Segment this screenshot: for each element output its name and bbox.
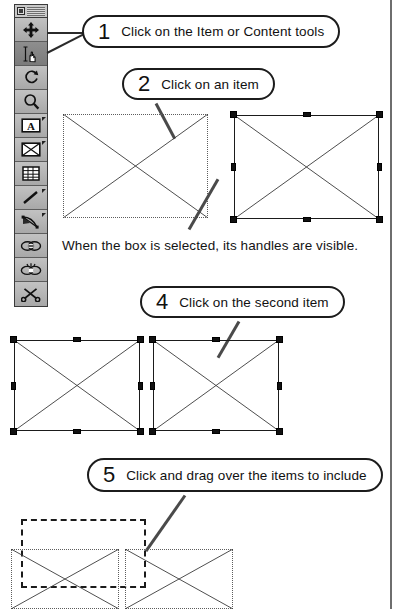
titlebar-stripes xyxy=(27,7,45,16)
picture-box-marquee-right[interactable] xyxy=(125,549,233,609)
tool-zoom-tool[interactable] xyxy=(15,90,47,114)
resize-handle-top-left[interactable] xyxy=(230,111,237,118)
tool-text-path-tool[interactable] xyxy=(15,210,47,234)
tool-rotation-tool[interactable] xyxy=(15,66,47,90)
resize-handle-bottom-left[interactable] xyxy=(149,428,156,435)
resize-handle-top-center[interactable] xyxy=(212,337,220,342)
tool-popout-flag-icon[interactable] xyxy=(42,117,46,121)
tool-scissors-tool[interactable] xyxy=(15,282,47,306)
resize-handle-bottom-center[interactable] xyxy=(73,429,81,434)
picture-box-selected[interactable] xyxy=(234,115,379,219)
resize-handle-top-center[interactable] xyxy=(73,337,81,342)
empty-picture-box-x-icon xyxy=(234,115,379,219)
empty-picture-box-x-icon xyxy=(11,549,119,609)
four-way-move-icon xyxy=(22,21,40,39)
callout-1-leader-line-b xyxy=(47,33,85,54)
tool-item-tool[interactable] xyxy=(15,18,47,42)
resize-handle-middle-left[interactable] xyxy=(231,163,236,171)
resize-handle-bottom-center[interactable] xyxy=(212,429,220,434)
text-box-a-icon: A xyxy=(21,118,41,133)
resize-handle-top-right[interactable] xyxy=(276,336,283,343)
empty-picture-box-x-icon xyxy=(125,549,233,609)
diagonal-line-icon xyxy=(22,190,40,205)
tool-text-box-tool[interactable]: A xyxy=(15,114,47,138)
resize-handle-middle-left[interactable] xyxy=(11,382,16,390)
magnifier-icon xyxy=(23,93,40,110)
picture-box-selected-second[interactable] xyxy=(153,340,279,431)
callout-5-number: 5 xyxy=(103,464,115,486)
resize-handle-bottom-left[interactable] xyxy=(10,428,17,435)
tool-popout-flag-icon[interactable] xyxy=(42,141,46,145)
resize-handle-top-center[interactable] xyxy=(303,112,311,117)
empty-picture-box-x-icon xyxy=(14,340,140,431)
palette-titlebar[interactable] xyxy=(15,5,47,18)
picture-box-unselected[interactable] xyxy=(63,114,208,218)
callout-5-leader-line xyxy=(145,495,186,552)
resize-handle-middle-right[interactable] xyxy=(138,382,143,390)
picture-box-x-icon xyxy=(21,142,41,157)
resize-handle-middle-right[interactable] xyxy=(277,382,282,390)
tool-content-tool[interactable] xyxy=(15,42,47,66)
callout-1-text: Click on the Item or Content tools xyxy=(121,24,324,39)
tool-picture-box-tool[interactable] xyxy=(15,138,47,162)
callout-1: 1 Click on the Item or Content tools xyxy=(82,15,340,48)
callout-1-leader-line-a xyxy=(47,32,84,34)
chain-break-icon xyxy=(20,262,42,277)
picture-box-selected-first[interactable] xyxy=(14,340,140,431)
callout-4-number: 4 xyxy=(156,291,168,313)
tool-linking-tool[interactable] xyxy=(15,234,47,258)
resize-handle-middle-right[interactable] xyxy=(377,163,382,171)
callout-2-text: Click on an item xyxy=(161,77,259,92)
tool-unlinking-tool[interactable] xyxy=(15,258,47,282)
hand-text-icon xyxy=(20,45,42,63)
callout-5: 5 Click and drag over the items to inclu… xyxy=(87,458,383,492)
svg-text:A: A xyxy=(27,120,35,132)
callout-4-text: Click on the second item xyxy=(179,295,328,310)
rotation-icon xyxy=(23,69,40,86)
resize-handle-bottom-center[interactable] xyxy=(303,217,311,222)
resize-handle-top-right[interactable] xyxy=(137,336,144,343)
tool-popout-flag-icon[interactable] xyxy=(42,213,46,217)
resize-handle-bottom-right[interactable] xyxy=(376,216,383,223)
scissors-icon xyxy=(21,287,41,302)
callout-1-number: 1 xyxy=(98,21,110,43)
resize-handle-top-left[interactable] xyxy=(10,336,17,343)
resize-handle-bottom-left[interactable] xyxy=(230,216,237,223)
page-divider-rule xyxy=(390,0,392,609)
tool-table-tool[interactable] xyxy=(15,162,47,186)
tools-palette[interactable]: A xyxy=(14,4,48,307)
callout-2: 2 Click on an item xyxy=(122,68,275,100)
resize-handle-top-left[interactable] xyxy=(149,336,156,343)
tutorial-page: A xyxy=(0,0,405,609)
callout-4: 4 Click on the second item xyxy=(140,286,345,318)
empty-picture-box-x-icon xyxy=(153,340,279,431)
resize-handle-bottom-right[interactable] xyxy=(276,428,283,435)
tool-popout-flag-icon[interactable] xyxy=(42,189,46,193)
callout-5-text: Click and drag over the items to include xyxy=(126,468,366,483)
resize-handle-bottom-right[interactable] xyxy=(137,428,144,435)
chain-link-icon xyxy=(20,239,42,253)
close-box-icon[interactable] xyxy=(17,7,25,15)
callout-2-number: 2 xyxy=(138,73,150,95)
resize-handle-top-right[interactable] xyxy=(376,111,383,118)
bezier-text-path-icon xyxy=(21,214,41,230)
tool-line-tool[interactable] xyxy=(15,186,47,210)
table-grid-icon xyxy=(22,166,40,181)
empty-picture-box-x-icon xyxy=(63,114,208,218)
resize-handle-middle-left[interactable] xyxy=(150,382,155,390)
figure-caption: When the box is selected, its handles ar… xyxy=(62,238,358,253)
picture-box-marquee-left[interactable] xyxy=(11,549,119,609)
